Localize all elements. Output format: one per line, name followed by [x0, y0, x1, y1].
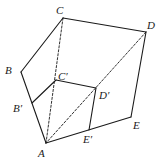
vertex-label-e1: E′: [82, 133, 93, 145]
geometry-diagram: ABCDEB′C′D′E′: [0, 0, 158, 163]
vertex-label-e: E: [132, 119, 140, 131]
edges-group: [21, 18, 146, 143]
edge-b-a: [21, 72, 46, 143]
vertex-label-a: A: [37, 147, 45, 159]
vertex-label-d: D: [146, 19, 155, 31]
vertex-label-b: B: [5, 64, 12, 76]
edge-e-d: [131, 32, 146, 117]
edge-c-d: [63, 18, 146, 32]
edge-b1-c1: [32, 80, 56, 103]
vertex-label-d1: D′: [98, 89, 110, 101]
labels-group: ABCDEB′C′D′E′: [5, 4, 155, 159]
vertex-label-b1: B′: [13, 102, 23, 114]
vertex-label-c: C: [56, 4, 64, 16]
vertex-label-c1: C′: [58, 70, 68, 82]
